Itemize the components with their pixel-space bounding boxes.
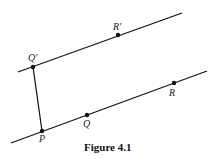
- point-r: [172, 81, 176, 85]
- label-q: Q: [83, 118, 91, 129]
- label-q-prime: Q′: [28, 52, 38, 63]
- point-q-prime: [31, 65, 35, 69]
- point-q: [85, 113, 89, 117]
- label-r: R: [168, 87, 175, 98]
- segment-q-prime-p: [33, 67, 42, 131]
- figure-caption: Figure 4.1: [84, 141, 131, 153]
- label-p: P: [38, 133, 45, 144]
- point-r-prime: [116, 33, 120, 37]
- figure-diagram: Q′ R′ R Q P Figure 4.1: [0, 0, 221, 159]
- upper-line: [18, 13, 182, 72]
- label-r-prime: R′: [112, 21, 122, 32]
